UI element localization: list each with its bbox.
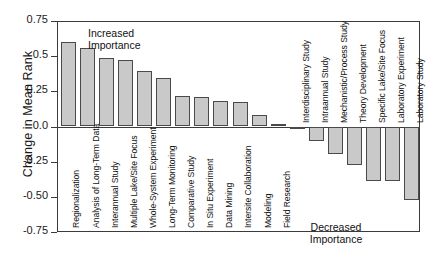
category-label: Long-Term Monitoring: [167, 145, 177, 228]
y-axis-tick-label: -0.25: [23, 154, 48, 166]
category-label: Multiple Lake/Site Focus: [129, 135, 139, 227]
category-label: Intraannual Study: [320, 56, 330, 123]
category-label: Modeling: [263, 193, 273, 227]
category-label: Data Mining: [224, 182, 234, 227]
y-axis-tick-label: 0.5: [33, 48, 48, 60]
category-label: Comparative Study: [186, 155, 196, 227]
annotation-decreased-line2: Importance: [310, 234, 363, 246]
category-label: Laboratory Study: [415, 58, 425, 123]
annotation-increased-line1: Increased: [88, 28, 141, 40]
annotation-increased-importance: Increased Importance: [88, 28, 141, 51]
y-axis-tick-label: 0.0: [33, 119, 48, 131]
y-axis-tick-label: 0.25: [27, 83, 48, 95]
y-axis-tick-mark: [51, 232, 57, 233]
category-label: Interannual Study: [110, 161, 120, 228]
y-axis-tick-label: -0.50: [23, 189, 48, 201]
annotation-decreased-importance: Decreased Importance: [310, 222, 363, 245]
y-axis-tick-label: -0.75: [23, 224, 48, 236]
category-label: In Situ Experiment: [205, 158, 215, 227]
category-labels-layer: RegionalizationAnalysis of Long-Term Dat…: [57, 21, 420, 232]
bar-chart-figure: Change in Mean Rank 0.750.50.250.0-0.25-…: [0, 0, 427, 262]
category-label: Analysis of Long-Term Data: [91, 123, 101, 227]
category-label: Laboratory Experiment: [396, 37, 406, 123]
category-label: Intersite Collaboration: [243, 145, 253, 227]
category-label: Specific Lake/Site Focus: [377, 30, 387, 123]
category-label: Regionalization: [71, 169, 81, 227]
category-label: Whole-System Experiment: [148, 127, 158, 228]
annotation-increased-line2: Importance: [88, 40, 141, 52]
category-label: Field Research: [282, 170, 292, 227]
annotation-decreased-line1: Decreased: [310, 222, 363, 234]
category-label: Mechanistic/Process Study: [339, 21, 349, 123]
category-label: Interdisciplinary Study: [301, 40, 311, 123]
y-axis-tick-label: 0.75: [27, 13, 48, 25]
category-label: Theory Development: [358, 44, 368, 123]
